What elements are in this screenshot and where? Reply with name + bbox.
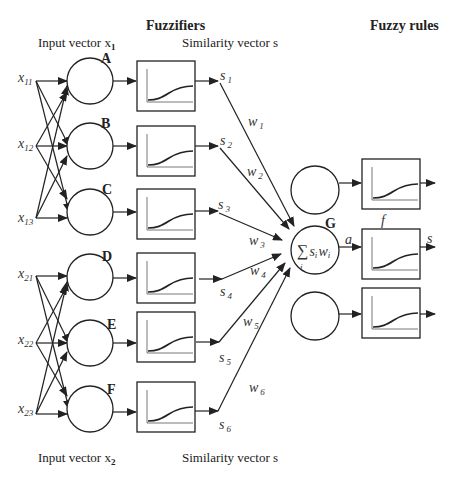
svg-text:x12: x12: [17, 136, 34, 153]
input-connections-group-1: [36, 81, 69, 218]
fuzzifier-nodes: A B C D E F: [67, 51, 116, 432]
svg-text:F: F: [107, 382, 116, 397]
similarity-labels: s1 s2 s3 s4 s5 s6: [218, 68, 232, 434]
rule-node-top: [291, 166, 339, 214]
sigmoid-box-6: [137, 382, 195, 432]
svg-text:w1: w1: [248, 114, 264, 131]
sigmoid-box-5: [137, 312, 195, 362]
input-connections-group-2: [36, 276, 69, 414]
svg-text:w2: w2: [247, 164, 263, 181]
svg-text:x23: x23: [17, 401, 34, 418]
svg-text:A: A: [101, 51, 112, 66]
svg-text:s4: s4: [220, 284, 232, 301]
svg-text:w3: w3: [249, 233, 265, 250]
sigmoid-box-3: [137, 189, 195, 239]
svg-text:s3: s3: [218, 197, 230, 214]
function-label: f: [381, 213, 387, 228]
fuzzifier-function-boxes: [137, 61, 195, 432]
output-arrows: [420, 183, 435, 314]
sigmoid-box-1: [137, 61, 195, 111]
sum-formula: ∑siwi: [297, 242, 331, 260]
svg-text:E: E: [107, 317, 116, 332]
sigmoid-box-2: [137, 126, 195, 176]
rule-function-boxes: [362, 159, 420, 338]
svg-text:x11: x11: [17, 70, 33, 87]
fuzzy-network-diagram: Fuzzifiers Fuzzy rules Input vector x1 S…: [0, 0, 453, 479]
input-labels: x11 x12 x13 x21 x22 x23: [17, 70, 34, 418]
svg-text:w5: w5: [243, 314, 259, 331]
svg-text:x21: x21: [17, 266, 33, 283]
rule-node-bottom: [291, 292, 339, 340]
fuzzifier-arrows: [113, 81, 136, 412]
caption-input-vector-2: Input vector x2: [38, 450, 116, 467]
svg-text:s2: s2: [220, 133, 232, 150]
svg-text:s6: s6: [219, 417, 231, 434]
output-label: s: [427, 231, 433, 246]
caption-similarity-top: Similarity vector s: [182, 35, 278, 50]
svg-text:w4: w4: [250, 263, 266, 280]
header-fuzzifiers: Fuzzifiers: [146, 18, 206, 33]
svg-text:s5: s5: [219, 350, 231, 367]
rule-sigmoid-box-3: [362, 288, 420, 338]
svg-text:C: C: [102, 182, 112, 197]
header-fuzzy-rules: Fuzzy rules: [370, 18, 439, 33]
svg-text:s1: s1: [220, 68, 232, 85]
caption-similarity-bottom: Similarity vector s: [182, 450, 278, 465]
rule-sigmoid-box-g: [362, 229, 420, 279]
node-g-label: G: [325, 216, 336, 231]
activation-label: a: [345, 232, 352, 247]
rule-arrows: [339, 183, 361, 314]
svg-text:B: B: [101, 116, 110, 131]
caption-input-vector-1: Input vector x1: [38, 35, 116, 52]
svg-text:x13: x13: [17, 210, 34, 227]
rule-sigmoid-box-1: [362, 159, 420, 209]
svg-text:x22: x22: [17, 332, 34, 349]
fuzzy-rule-nodes: G ∑siwi i: [291, 166, 339, 340]
sigmoid-box-4: [137, 253, 195, 303]
svg-text:w6: w6: [249, 380, 265, 397]
similarity-arrows: [195, 81, 222, 411]
svg-text:D: D: [102, 249, 112, 264]
